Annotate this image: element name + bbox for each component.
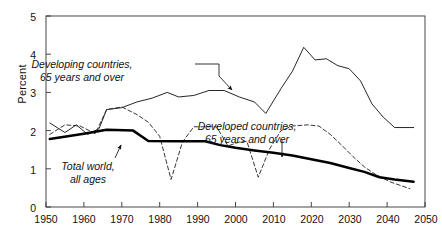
- series-label-developing-countries: Developing countries, 65 years and over: [32, 58, 133, 83]
- x-tick-label-1980: 1980: [143, 213, 177, 225]
- x-tick-label-2030: 2030: [333, 213, 367, 225]
- x-tick-label-2020: 2020: [295, 213, 329, 225]
- series-label-total-world: Total world, all ages: [61, 160, 114, 185]
- series-label-developed-countries: Developed countries, 65 years and over: [198, 120, 297, 145]
- series-label-developed-line2: 65 years and over: [205, 133, 289, 145]
- series-label-developed-line1: Developed countries,: [198, 120, 297, 132]
- series-label-developing-line1: Developing countries,: [32, 58, 133, 70]
- x-tick-label-1990: 1990: [181, 213, 215, 225]
- x-tick-label-2010: 2010: [257, 213, 291, 225]
- x-tick-label-2050: 2050: [409, 213, 442, 225]
- series-label-developing-line2: 65 years and over: [40, 71, 124, 83]
- y-tick-label-1: 1: [22, 164, 36, 176]
- developing-annotation-leader: [195, 64, 232, 90]
- total-world-annotation-leader: [115, 145, 121, 158]
- y-tick-label-2: 2: [22, 126, 36, 138]
- y-tick-label-5: 5: [22, 11, 36, 23]
- x-tick-label-1950: 1950: [29, 213, 63, 225]
- x-tick-label-1970: 1970: [105, 213, 139, 225]
- x-tick-label-2040: 2040: [371, 213, 405, 225]
- y-tick-label-3: 3: [22, 87, 36, 99]
- x-tick-label-2000: 2000: [219, 213, 253, 225]
- series-label-total-line2: all ages: [70, 173, 106, 185]
- x-tick-label-1960: 1960: [67, 213, 101, 225]
- series-label-total-line1: Total world,: [61, 160, 114, 172]
